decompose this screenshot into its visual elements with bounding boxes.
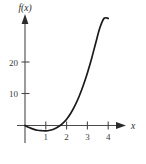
x-tick-label-2: 2 [64, 132, 69, 142]
x-tick-label-1: 1 [44, 132, 49, 142]
figure-background [0, 0, 146, 164]
function-graph-figure: 1 2 3 4 20 10 f(x) x [0, 0, 146, 164]
x-tick-label-4: 4 [106, 132, 111, 142]
graph-svg: 1 2 3 4 20 10 f(x) x [0, 0, 146, 164]
y-axis-title: f(x) [18, 3, 31, 14]
y-tick-label-10: 10 [9, 89, 19, 99]
x-axis-title: x [130, 121, 136, 131]
y-tick-label-20: 20 [9, 58, 19, 68]
x-tick-label-3: 3 [85, 132, 90, 142]
